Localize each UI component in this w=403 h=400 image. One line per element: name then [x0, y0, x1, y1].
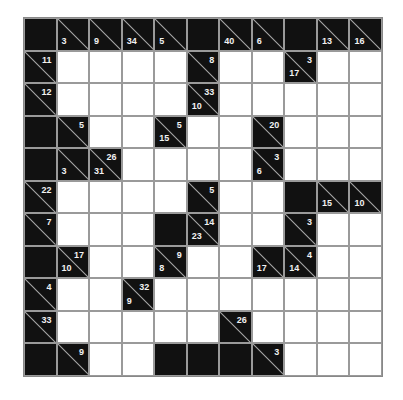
block-cell [154, 343, 187, 376]
clue-cell: 17 [252, 246, 285, 279]
entry-cell[interactable] [349, 148, 382, 181]
entry-cell[interactable] [349, 83, 382, 116]
entry-cell[interactable] [349, 311, 382, 344]
entry-cell[interactable] [349, 213, 382, 246]
entry-cell[interactable] [219, 246, 252, 279]
clue-cell: 414 [284, 246, 317, 279]
entry-cell[interactable] [284, 83, 317, 116]
entry-cell[interactable] [122, 311, 155, 344]
entry-cell[interactable] [317, 148, 350, 181]
down-clue: 34 [127, 37, 137, 46]
entry-cell[interactable] [349, 51, 382, 84]
entry-cell[interactable] [122, 116, 155, 149]
entry-cell[interactable] [284, 278, 317, 311]
entry-cell[interactable] [89, 51, 122, 84]
across-clue: 26 [107, 153, 117, 162]
entry-cell[interactable] [219, 278, 252, 311]
clue-cell: 3 [284, 213, 317, 246]
entry-cell[interactable] [317, 83, 350, 116]
entry-cell[interactable] [122, 181, 155, 214]
entry-cell[interactable] [89, 246, 122, 279]
entry-cell[interactable] [154, 51, 187, 84]
entry-cell[interactable] [219, 116, 252, 149]
entry-cell[interactable] [349, 278, 382, 311]
entry-cell[interactable] [89, 278, 122, 311]
entry-cell[interactable] [219, 51, 252, 84]
block-cell [24, 116, 57, 149]
entry-cell[interactable] [284, 343, 317, 376]
clue-cell: 34 [122, 18, 155, 51]
across-clue: 22 [42, 186, 52, 195]
entry-cell[interactable] [284, 148, 317, 181]
entry-cell[interactable] [154, 83, 187, 116]
entry-cell[interactable] [122, 343, 155, 376]
entry-cell[interactable] [252, 311, 285, 344]
entry-cell[interactable] [89, 213, 122, 246]
entry-cell[interactable] [187, 278, 220, 311]
entry-cell[interactable] [57, 311, 90, 344]
entry-cell[interactable] [122, 83, 155, 116]
across-clue: 7 [47, 218, 52, 227]
clue-cell: 2631 [89, 148, 122, 181]
entry-cell[interactable] [219, 83, 252, 116]
clue-cell: 3 [252, 343, 285, 376]
entry-cell[interactable] [154, 278, 187, 311]
clue-cell: 12 [24, 83, 57, 116]
entry-cell[interactable] [349, 246, 382, 279]
clue-cell: 5 [187, 181, 220, 214]
down-clue: 8 [159, 264, 164, 273]
entry-cell[interactable] [187, 246, 220, 279]
entry-cell[interactable] [317, 343, 350, 376]
entry-cell[interactable] [219, 181, 252, 214]
down-clue: 6 [257, 37, 262, 46]
entry-cell[interactable] [57, 213, 90, 246]
entry-cell[interactable] [154, 181, 187, 214]
entry-cell[interactable] [122, 148, 155, 181]
entry-cell[interactable] [252, 213, 285, 246]
clue-cell: 13 [317, 18, 350, 51]
entry-cell[interactable] [122, 246, 155, 279]
entry-cell[interactable] [187, 148, 220, 181]
entry-cell[interactable] [89, 116, 122, 149]
entry-cell[interactable] [317, 51, 350, 84]
clue-cell: 10 [349, 181, 382, 214]
entry-cell[interactable] [57, 83, 90, 116]
entry-cell[interactable] [187, 311, 220, 344]
entry-cell[interactable] [284, 116, 317, 149]
across-clue: 12 [42, 88, 52, 97]
across-clue: 26 [237, 316, 247, 325]
entry-cell[interactable] [122, 51, 155, 84]
entry-cell[interactable] [187, 116, 220, 149]
entry-cell[interactable] [57, 278, 90, 311]
entry-cell[interactable] [89, 343, 122, 376]
entry-cell[interactable] [122, 213, 155, 246]
entry-cell[interactable] [89, 181, 122, 214]
entry-cell[interactable] [252, 278, 285, 311]
entry-cell[interactable] [284, 311, 317, 344]
entry-cell[interactable] [219, 148, 252, 181]
entry-cell[interactable] [154, 148, 187, 181]
down-clue: 31 [94, 167, 104, 176]
entry-cell[interactable] [154, 311, 187, 344]
entry-cell[interactable] [89, 311, 122, 344]
clue-cell: 5 [57, 116, 90, 149]
down-clue: 40 [224, 37, 234, 46]
entry-cell[interactable] [252, 51, 285, 84]
entry-cell[interactable] [317, 213, 350, 246]
entry-cell[interactable] [57, 181, 90, 214]
down-clue: 17 [289, 69, 299, 78]
entry-cell[interactable] [57, 51, 90, 84]
entry-cell[interactable] [252, 83, 285, 116]
block-cell [187, 18, 220, 51]
entry-cell[interactable] [317, 311, 350, 344]
entry-cell[interactable] [89, 83, 122, 116]
entry-cell[interactable] [317, 278, 350, 311]
entry-cell[interactable] [317, 246, 350, 279]
block-cell [24, 148, 57, 181]
entry-cell[interactable] [349, 343, 382, 376]
entry-cell[interactable] [219, 213, 252, 246]
down-clue: 9 [94, 37, 99, 46]
entry-cell[interactable] [349, 116, 382, 149]
entry-cell[interactable] [317, 116, 350, 149]
entry-cell[interactable] [252, 181, 285, 214]
